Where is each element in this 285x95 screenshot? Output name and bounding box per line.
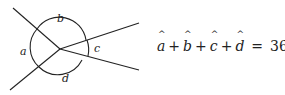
- label-b: b: [57, 12, 64, 25]
- label-d: d: [62, 72, 69, 85]
- arc-c: [87, 40, 89, 56]
- arc-a: [30, 29, 39, 67]
- label-a: a: [20, 45, 27, 58]
- result-value: 360°: [270, 38, 285, 54]
- term-a: ^a: [157, 38, 165, 54]
- ray-lower-left: [10, 49, 60, 90]
- equals-sign: =: [251, 38, 263, 54]
- term-d: ^d: [235, 38, 244, 54]
- angle-sum-equation: ^a+^b+^c+^d=360°: [157, 38, 285, 54]
- term-b: ^b: [183, 38, 192, 54]
- ray-upper-left: [13, 8, 60, 49]
- arc-d: [39, 60, 82, 75]
- term-c: ^c: [210, 38, 218, 54]
- label-c: c: [94, 42, 100, 55]
